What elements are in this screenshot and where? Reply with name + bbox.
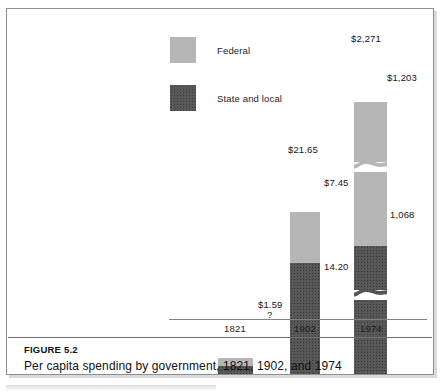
legend-label-federal: Federal [217, 45, 250, 56]
bar-1902-state-and-local-label: 14.20 [324, 261, 349, 272]
federal-swatch-icon [170, 37, 196, 63]
x-tick-label-1974: 1974 [341, 323, 401, 334]
bar-1974-segment-federal [354, 102, 387, 246]
bar-1974-federal-label: $1,203 [387, 72, 417, 83]
caption-divider [8, 337, 432, 338]
figure-caption: FIGURE 5.2 Per capita spending by govern… [24, 344, 421, 373]
x-tick-label-1902: 1902 [275, 323, 335, 334]
chart-plot-area: Federal State and local $1.59 ? $21.65 $… [7, 9, 433, 374]
bar-1902-federal-label: $7.45 [324, 177, 349, 188]
figure-frame: Federal State and local $1.59 ? $21.65 $… [6, 8, 434, 375]
figure-title: Per capita spending by government, 1821,… [24, 359, 421, 373]
legend-item-federal: Federal [170, 37, 320, 63]
x-axis-line [169, 319, 427, 320]
page-source-sliver [6, 385, 216, 391]
state-local-swatch-icon [170, 85, 196, 111]
bar-1974-total-label: $2,271 [351, 33, 381, 44]
bar-1902-segment-federal [290, 212, 320, 263]
figure-number: FIGURE 5.2 [24, 344, 421, 355]
bar-1902-total-label: $21.65 [288, 144, 318, 155]
x-tick-label-1821: 1821 [205, 323, 265, 334]
bar-1974-state-and-local-label: 1,068 [390, 209, 415, 220]
